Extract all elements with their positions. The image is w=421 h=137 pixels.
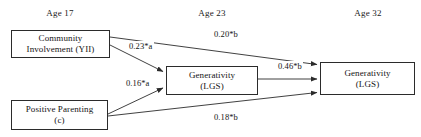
node-community-involvement-line-1: Community xyxy=(39,33,83,44)
node-generativity-age-23-line-1: Generativity xyxy=(189,70,235,81)
path-label-parenting-to-generativity32: 0.18*b xyxy=(213,112,239,122)
node-positive-parenting-line-1: Positive Parenting xyxy=(26,104,94,115)
node-community-involvement-line-2: Involvement (YII) xyxy=(27,44,95,55)
edge-parenting-to-generativity23 xyxy=(108,88,163,114)
node-generativity-age-32: Generativity (LGS) xyxy=(320,62,415,95)
node-generativity-age-23: Generativity (LGS) xyxy=(166,66,258,95)
path-label-community-to-generativity23: 0.23*a xyxy=(128,41,154,51)
path-diagram-figure: Age 17 Age 23 Age 32 Community Involveme… xyxy=(0,0,421,137)
path-label-generativity23-to-generativity32: 0.46*b xyxy=(277,61,303,71)
node-generativity-age-32-line-1: Generativity xyxy=(344,68,390,79)
node-generativity-age-32-line-2: (LGS) xyxy=(356,79,380,90)
wave-header-age-17: Age 17 xyxy=(24,8,96,18)
path-label-parenting-to-generativity23: 0.16*a xyxy=(125,78,151,88)
wave-header-age-32: Age 32 xyxy=(332,8,404,18)
path-label-community-to-generativity32: 0.20*b xyxy=(213,29,239,39)
node-generativity-age-23-line-2: (LGS) xyxy=(200,81,224,92)
node-positive-parenting-line-2: (c) xyxy=(54,115,64,126)
node-positive-parenting: Positive Parenting (c) xyxy=(11,100,108,130)
node-community-involvement: Community Involvement (YII) xyxy=(11,30,110,58)
wave-header-age-23: Age 23 xyxy=(176,8,248,18)
